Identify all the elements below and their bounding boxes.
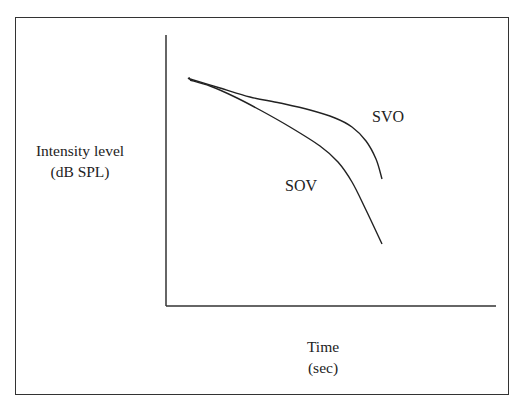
x-axis-label-line1: Time: [280, 336, 366, 357]
svo-label: SVO: [372, 108, 404, 126]
sov-label: SOV: [285, 177, 317, 195]
svo-curve: [190, 79, 382, 179]
x-axis-label: Time (sec): [280, 336, 366, 378]
y-axis-label-line1: Intensity level: [20, 140, 140, 161]
x-axis-label-line2: (sec): [280, 357, 366, 378]
plot-area: [0, 0, 524, 408]
y-axis-label: Intensity level (dB SPL): [20, 140, 140, 182]
y-axis-label-line2: (dB SPL): [20, 161, 140, 182]
